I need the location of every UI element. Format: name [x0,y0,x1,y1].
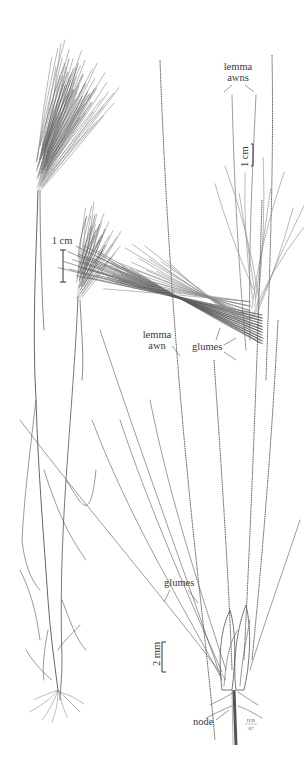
awn-stroke [104,289,251,302]
awn-stroke [76,276,262,316]
scale-bar-habit-label: 1 cm [52,235,73,246]
label-lemma-awn-line2: awn [148,340,166,351]
signature-line2: 87 [249,726,255,731]
scale-bar-spikelet-label: 2 mm [151,642,162,666]
artist-signature: H/B 87 [245,718,257,731]
label-lemma-awns-line1: lemma [224,61,253,72]
habit-drawing [20,190,96,722]
roots [30,690,84,722]
label-glumes-upper: glumes [192,328,236,360]
scale-bar-spike: 1 cm [239,144,253,167]
awn-stroke [239,193,255,297]
label-lemma-awn-line1: lemma [143,329,172,340]
botanical-illustration: lemma awns lemma awn glumes glumes node … [0,0,304,757]
label-lemma-awns-line2: awns [227,72,249,83]
spike-detail [58,55,304,740]
label-lemma-awns: lemma awns [224,61,254,92]
label-glumes-lower: glumes [164,577,198,603]
scale-bar-habit: 1 cm [52,235,73,282]
label-lemma-awn: lemma awn [143,329,180,356]
habit-spike-upper [36,40,119,189]
label-glumes-upper-text: glumes [192,341,222,352]
awn-stroke [257,208,293,314]
label-glumes-lower-text: glumes [164,577,194,588]
label-node-text: node [193,716,214,727]
scale-bar-spikelet: 2 mm [151,642,166,672]
label-node: node [193,710,229,727]
awn-stroke [245,173,253,299]
scale-bar-spike-label: 1 cm [239,146,250,167]
awn-stroke [215,184,253,289]
signature-line1: H/B [247,718,256,723]
